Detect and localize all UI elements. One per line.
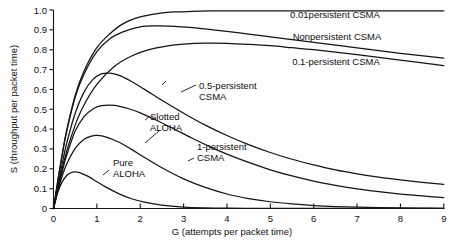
annotation-pure-aloha-line1: Pure xyxy=(113,157,133,168)
y-axis-ticks xyxy=(50,10,54,209)
x-tick-label-6: 6 xyxy=(311,213,316,224)
curve-0-5-persistent-csma xyxy=(54,73,444,209)
y-tick-labels: 1.0 0.9 0.8 0.7 0.6 0.5 0.4 0.3 0.2 0.1 … xyxy=(34,5,47,214)
x-tick-label-1: 1 xyxy=(94,213,99,224)
throughput-chart-figure: 1.0 0.9 0.8 0.7 0.6 0.5 0.4 0.3 0.2 0.1 … xyxy=(0,0,466,242)
annotation-01persistent-csma: 0.1-persistent CSMA xyxy=(292,56,380,67)
y-tick-label-0.7: 0.7 xyxy=(34,64,47,75)
y-tick-label-0.6: 0.6 xyxy=(34,84,47,95)
y-tick-label-0.2: 0.2 xyxy=(34,163,47,174)
annotation-pure-aloha-line2: ALOHA xyxy=(113,168,146,179)
y-tick-label-0.8: 0.8 xyxy=(34,44,47,55)
y-tick-label-0.4: 0.4 xyxy=(34,123,47,134)
curve-0-1-persistent-csma xyxy=(54,43,444,208)
annotation-1persistent-csma-line1: 1-persistent xyxy=(197,141,247,152)
x-tick-label-7: 7 xyxy=(354,213,359,224)
y-tick-label-0.5: 0.5 xyxy=(34,104,47,115)
x-tick-label-0: 0 xyxy=(51,213,56,224)
annotation-slotted-aloha-line2: ALOHA xyxy=(150,122,183,133)
leader-05persistent-arrow xyxy=(162,81,166,85)
annotation-nonpersistent-csma: Nonpersistent CSMA xyxy=(293,31,382,42)
x-tick-label-5: 5 xyxy=(268,213,273,224)
y-tick-label-0.9: 0.9 xyxy=(34,24,47,35)
x-tick-label-8: 8 xyxy=(398,213,403,224)
leader-1persistent xyxy=(188,158,194,161)
curve-nonpersistent-csma xyxy=(54,26,444,209)
leader-05persistent xyxy=(181,85,196,92)
chart-canvas: 1.0 0.9 0.8 0.7 0.6 0.5 0.4 0.3 0.2 0.1 … xyxy=(0,0,466,242)
x-tick-label-3: 3 xyxy=(181,213,186,224)
annotation-1persistent-csma-line2: CSMA xyxy=(197,152,225,163)
y-tick-label-1.0: 1.0 xyxy=(34,5,47,16)
y-tick-label-0.3: 0.3 xyxy=(34,143,47,154)
x-tick-labels: 0 1 2 3 4 5 6 7 8 9 xyxy=(51,213,447,224)
y-tick-label-0.1: 0.1 xyxy=(34,183,47,194)
x-axis-title: G (attempts per packet time) xyxy=(172,226,292,237)
annotation-05persistent-csma-line2: CSMA xyxy=(199,91,227,102)
annotation-001persistent-csma: 0.01persistent CSMA xyxy=(290,9,380,20)
x-tick-label-2: 2 xyxy=(138,213,143,224)
x-tick-label-9: 9 xyxy=(441,213,446,224)
leader-pure xyxy=(103,170,109,175)
y-tick-label-0: 0 xyxy=(42,203,47,214)
y-axis-title: S (throughput per packet time) xyxy=(8,45,19,173)
annotation-05persistent-csma-line1: 0.5-persistent xyxy=(199,80,257,91)
annotation-slotted-aloha-line1: Slotted xyxy=(150,111,180,122)
x-tick-label-4: 4 xyxy=(224,213,229,224)
